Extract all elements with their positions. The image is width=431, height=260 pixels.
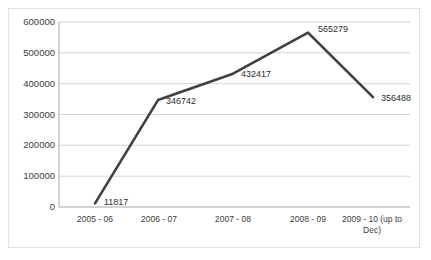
data-point-label: 346742 bbox=[166, 96, 196, 106]
data-point-label: 356488 bbox=[381, 93, 411, 103]
y-tick-label: 500000 bbox=[3, 48, 55, 58]
x-tick-label: 2009 - 10 (up to Dec) bbox=[341, 214, 403, 236]
gridlines bbox=[59, 22, 410, 176]
y-tick-label: 100000 bbox=[3, 171, 55, 181]
y-tick-label: 200000 bbox=[3, 140, 55, 150]
y-tick-label: 0 bbox=[3, 202, 55, 212]
x-tick-label: 2006 - 07 bbox=[126, 214, 192, 225]
data-point-label: 11817 bbox=[104, 197, 128, 207]
y-tick-label: 600000 bbox=[3, 17, 55, 27]
x-tick-label: 2005 - 06 bbox=[62, 214, 128, 225]
y-axis-tick-labels: 600000 500000 400000 300000 200000 10000… bbox=[0, 0, 55, 260]
data-point-label: 432417 bbox=[241, 69, 271, 79]
x-tick-label: 2008 - 09 bbox=[275, 214, 341, 225]
y-tick-label: 400000 bbox=[3, 79, 55, 89]
data-series-line bbox=[95, 33, 373, 204]
x-tick-label: 2007 - 08 bbox=[200, 214, 266, 225]
y-tick-label: 300000 bbox=[3, 110, 55, 120]
data-point-label: 565279 bbox=[318, 24, 348, 34]
